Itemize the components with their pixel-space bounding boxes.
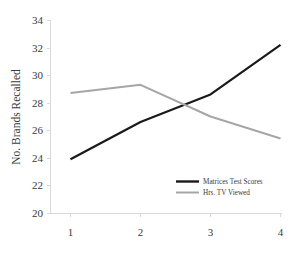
series-line-matrices-test-scores [71,45,281,159]
y-tick-label-26: 26 [32,124,44,136]
x-tick-label-3: 3 [208,226,214,238]
x-tick-marks [71,214,281,218]
y-tick-label-24: 24 [32,152,44,164]
chart-legend: Matrices Test Scores Hrs. TV Viewed [176,178,263,197]
y-tick-label-32: 32 [32,42,43,54]
y-tick-label-20: 20 [32,207,44,219]
line-chart: 34 32 30 28 26 24 22 20 1 2 3 4 No. Bran… [0,0,298,257]
x-tick-label-1: 1 [68,226,74,238]
y-tick-marks [47,21,51,214]
y-tick-label-28: 28 [32,97,44,109]
chart-figure: 34 32 30 28 26 24 22 20 1 2 3 4 No. Bran… [0,0,298,257]
y-axis-title: No. Brands Recalled [10,69,22,165]
x-tick-label-2: 2 [138,226,144,238]
y-tick-label-30: 30 [32,69,44,81]
y-tick-label-34: 34 [32,14,44,26]
y-tick-label-22: 22 [32,179,43,191]
legend-label-hrs-tv-viewed: Hrs. TV Viewed [203,189,250,197]
legend-label-matrices-test-scores: Matrices Test Scores [203,178,263,186]
x-tick-label-4: 4 [278,226,284,238]
series-line-hrs-tv-viewed [71,85,281,139]
